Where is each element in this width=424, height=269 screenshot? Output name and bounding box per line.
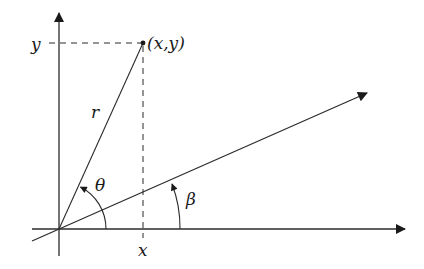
y-tick-label: y xyxy=(30,34,41,54)
polar-diagram: y x (x,y) r θ β xyxy=(0,0,424,269)
x-tick-label: x xyxy=(138,240,148,260)
beta-label: β xyxy=(185,189,196,209)
radius-line xyxy=(59,43,143,229)
beta-arc xyxy=(172,184,180,229)
theta-label: θ xyxy=(95,175,105,195)
point-marker xyxy=(141,41,146,46)
point-label: (x,y) xyxy=(147,33,185,53)
radius-label: r xyxy=(91,102,100,122)
rotated-axis xyxy=(32,93,367,241)
